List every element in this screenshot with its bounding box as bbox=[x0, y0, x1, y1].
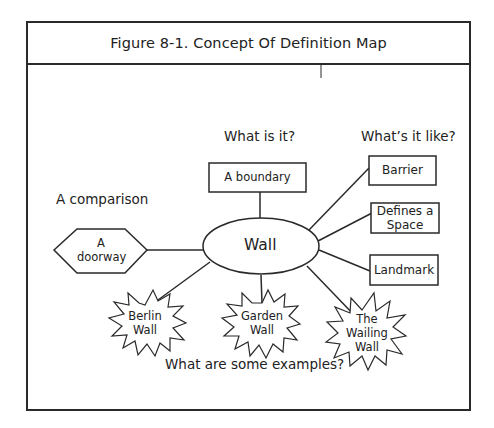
example-berlin-label: BerlinWall bbox=[120, 309, 170, 337]
center-node-label: Wall bbox=[244, 236, 276, 254]
property-defines-space-label: Defines aSpace bbox=[371, 204, 439, 232]
prompt-what-is-it: What is it? bbox=[224, 128, 295, 144]
connector-defines-space bbox=[318, 213, 372, 241]
property-defines-line2: Space bbox=[387, 218, 424, 232]
example-wailing-line1: The bbox=[356, 312, 377, 326]
connector-wailing bbox=[307, 266, 357, 318]
comparison-line2: doorway bbox=[77, 250, 126, 264]
property-defines-line1: Defines a bbox=[377, 204, 434, 218]
property-landmark-text: Landmark bbox=[374, 263, 434, 277]
example-berlin-line1: Berlin bbox=[128, 309, 161, 323]
property-landmark-label: Landmark bbox=[370, 263, 438, 277]
category-label: A boundary bbox=[209, 170, 306, 184]
example-wailing-line3: Wall bbox=[355, 340, 379, 354]
example-garden-line1: Garden bbox=[241, 309, 283, 323]
example-garden-label: GardenWall bbox=[236, 309, 288, 337]
connector-landmark bbox=[319, 250, 370, 271]
category-text: A boundary bbox=[224, 170, 290, 184]
comparison-line1: A bbox=[97, 236, 105, 250]
connector-garden bbox=[261, 275, 262, 303]
example-berlin-line2: Wall bbox=[133, 323, 157, 337]
property-barrier-text: Barrier bbox=[382, 163, 423, 177]
comparison-label: Adoorway bbox=[77, 236, 125, 264]
example-wailing-label: TheWailingWall bbox=[340, 312, 394, 354]
connector-berlin bbox=[158, 262, 210, 300]
connector-barrier bbox=[309, 168, 369, 230]
prompt-examples: What are some examples? bbox=[165, 356, 344, 372]
example-wailing-line2: Wailing bbox=[346, 326, 388, 340]
prompt-comparison: A comparison bbox=[56, 191, 148, 207]
example-garden-line2: Wall bbox=[250, 323, 274, 337]
prompt-whats-it-like: What’s it like? bbox=[361, 128, 456, 144]
property-barrier-label: Barrier bbox=[369, 163, 436, 177]
